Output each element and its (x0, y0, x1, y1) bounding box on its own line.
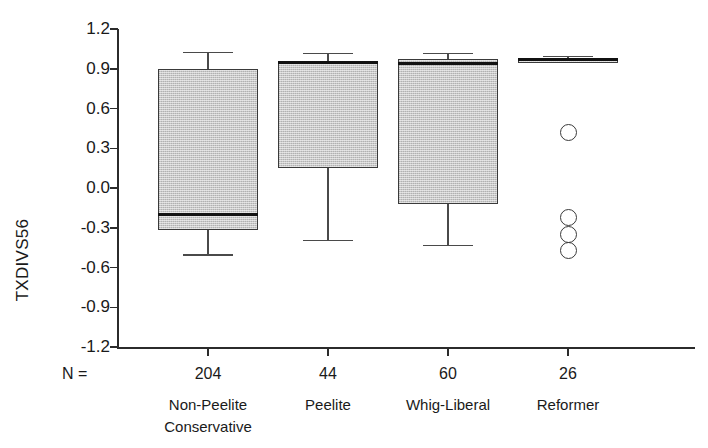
upper-whisker-cap (423, 53, 473, 54)
x-axis-tick-mark (327, 348, 329, 356)
x-axis-tick-mark (447, 348, 449, 356)
category-label: Reformer (493, 396, 643, 414)
y-axis-tick-mark (110, 267, 118, 269)
y-axis-tick-mark (110, 108, 118, 110)
category-n-value: 204 (148, 366, 268, 382)
lower-whisker-cap (183, 254, 233, 255)
y-axis-tick-label: 0.9 (52, 60, 110, 77)
y-axis-tick-label: -1.2 (52, 338, 110, 355)
y-axis-tick: -0.3 (40, 219, 110, 236)
y-axis-tick-label: -0.9 (52, 298, 110, 315)
lower-whisker-cap (303, 240, 353, 241)
n-equals-label: N = (62, 366, 87, 382)
outlier-point (560, 242, 577, 259)
y-axis-tick-label: 0.0 (52, 179, 110, 196)
y-axis-tick-label: -0.3 (52, 219, 110, 236)
y-axis-tick: -1.2 (40, 338, 110, 355)
x-axis-tick-mark (207, 348, 209, 356)
median-line (518, 58, 618, 61)
upper-whisker-cap (183, 52, 233, 53)
y-axis-tick-mark (110, 346, 118, 348)
y-axis-tick-mark (110, 227, 118, 229)
y-axis-tick-label: 0.6 (52, 100, 110, 117)
upper-whisker-cap (303, 53, 353, 54)
outlier-point (560, 124, 577, 141)
outlier-point (560, 209, 577, 226)
y-axis-tick: -0.9 (40, 298, 110, 315)
y-axis-tick: 0.3 (40, 139, 110, 156)
y-axis-tick: -0.6 (40, 259, 110, 276)
y-axis-tick-label: -0.6 (52, 259, 110, 276)
upper-whisker-line (207, 52, 208, 69)
median-line (398, 62, 498, 65)
box-iqr-rect (398, 59, 498, 203)
clipped-caption (0, 0, 708, 9)
outlier-point (560, 226, 577, 243)
box-iqr-rect (278, 62, 378, 168)
category-n-value: 60 (388, 366, 508, 382)
lower-whisker-line (207, 230, 208, 254)
y-axis-tick-mark (110, 187, 118, 189)
category-n-value: 44 (268, 366, 388, 382)
y-axis-tick-mark (110, 307, 118, 309)
y-axis-tick: 0.6 (40, 100, 110, 117)
box-iqr-rect (158, 69, 258, 231)
lower-whisker-line (447, 204, 448, 245)
y-axis-tick: 0.0 (40, 179, 110, 196)
y-axis-tick-mark (110, 148, 118, 150)
lower-whisker-line (327, 168, 328, 240)
y-axis-title: TXDIVS56 (13, 210, 33, 310)
upper-whisker-cap (543, 56, 593, 57)
y-axis-tick: 1.2 (40, 20, 110, 37)
y-axis-tick-label: 1.2 (52, 20, 110, 37)
boxplot-figure: TXDIVS56 1.20.90.60.30.0-0.3-0.6-0.9-1.2… (0, 0, 708, 448)
y-axis-tick-mark (110, 28, 118, 30)
y-axis-tick-mark (110, 68, 118, 70)
category-label-line2: Conservative (133, 418, 283, 436)
y-axis-tick: 0.9 (40, 60, 110, 77)
x-axis-line (117, 347, 695, 349)
y-axis-tick-label: 0.3 (52, 139, 110, 156)
lower-whisker-cap (423, 245, 473, 246)
category-n-value: 26 (508, 366, 628, 382)
median-line (158, 213, 258, 216)
median-line (278, 61, 378, 64)
x-axis-tick-mark (567, 348, 569, 356)
